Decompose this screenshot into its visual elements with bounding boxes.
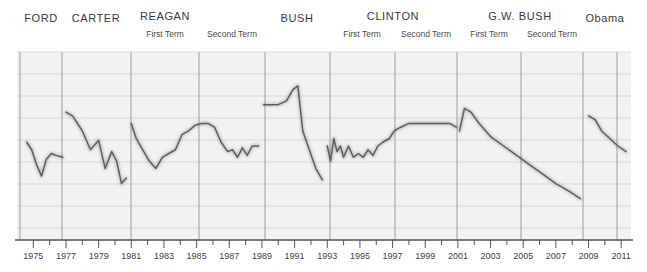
term-label-clinton-1: First Term: [343, 29, 381, 39]
president-label-bush: BUSH: [281, 12, 314, 24]
president-label-ford: FORD: [24, 12, 58, 24]
x-tick-label-1989: 1989: [252, 251, 272, 261]
president-label-carter: CARTER: [72, 12, 121, 24]
x-tick-label-2009: 2009: [579, 251, 599, 261]
x-tick-label-2001: 2001: [448, 251, 468, 261]
term-label-clinton-2: Second Term: [401, 29, 451, 39]
x-tick-label-1981: 1981: [121, 251, 141, 261]
x-tick-label-1997: 1997: [383, 251, 403, 261]
president-label-clinton: CLINTON: [367, 10, 419, 22]
x-tick-label-2007: 2007: [546, 251, 566, 261]
term-label-g-w-bush-1: First Term: [470, 29, 508, 39]
x-tick-label-1999: 1999: [415, 251, 435, 261]
x-tick-label-2005: 2005: [513, 251, 533, 261]
x-tick-label-2003: 2003: [481, 251, 501, 261]
x-tick-label-2011: 2011: [612, 251, 631, 261]
x-tick-label-1987: 1987: [219, 251, 239, 261]
x-tick-label-1979: 1979: [89, 251, 109, 261]
presidential-approval-chart: FORDCARTERREAGANFirst TermSecond TermBUS…: [0, 0, 647, 272]
president-label-reagan: REAGAN: [140, 10, 190, 22]
x-tick-label-1995: 1995: [350, 251, 370, 261]
x-tick-label-1993: 1993: [317, 251, 337, 261]
president-label-g-w-bush: G.W. BUSH: [488, 10, 551, 22]
term-label-reagan-2: Second Term: [207, 29, 257, 39]
x-tick-label-1975: 1975: [23, 251, 43, 261]
plot-background: [17, 52, 631, 240]
x-tick-label-1983: 1983: [154, 251, 174, 261]
chart-canvas: [0, 0, 647, 272]
x-tick-label-1991: 1991: [285, 251, 305, 261]
x-tick-label-1977: 1977: [56, 251, 76, 261]
president-label-obama: Obama: [585, 12, 624, 24]
x-axis-ticks: [33, 240, 621, 248]
x-tick-label-1985: 1985: [187, 251, 207, 261]
term-label-reagan-1: First Term: [146, 29, 184, 39]
term-label-g-w-bush-2: Second Term: [527, 29, 577, 39]
